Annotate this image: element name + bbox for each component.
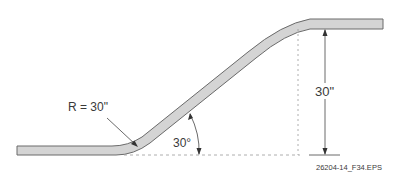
offset-bend-diagram: 30" 30° R = 30" 26204-14_F34.EPS xyxy=(0,0,397,182)
figure-id: 26204-14_F34.EPS xyxy=(316,163,382,172)
height-label: 30" xyxy=(315,84,334,99)
radius-leader xyxy=(107,118,136,145)
angle-label: 30° xyxy=(173,136,191,150)
arrow-up-icon xyxy=(323,29,328,36)
arc-arrow-bottom-icon xyxy=(197,148,202,155)
radius-label: R = 30" xyxy=(68,100,108,114)
arrow-down-icon xyxy=(323,148,328,155)
